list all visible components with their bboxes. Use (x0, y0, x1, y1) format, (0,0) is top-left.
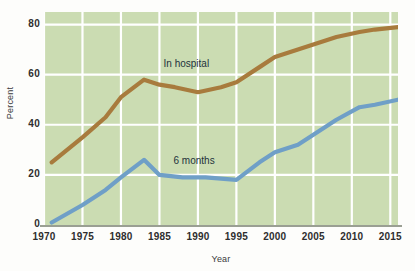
y-tick-label: 40 (6, 118, 40, 129)
y-tick-label: 20 (6, 168, 40, 179)
y-tick-label: 0 (6, 218, 40, 229)
y-tick-label: 80 (6, 18, 40, 29)
line-chart-figure: Percent 020406080 In hospital6 months 19… (0, 0, 415, 271)
y-tick-label: 60 (6, 68, 40, 79)
plot-svg (44, 12, 398, 225)
series-label-6-months: 6 months (173, 155, 214, 166)
series-label-in-hospital: In hospital (164, 58, 210, 69)
plot-area: In hospital6 months (44, 12, 398, 225)
x-axis-title: Year (44, 254, 398, 264)
x-axis-tick-labels: 1970197519801985199019952000200520102015 (0, 231, 415, 249)
x-axis-line (40, 225, 402, 227)
x-tick-label: 2015 (365, 231, 415, 242)
